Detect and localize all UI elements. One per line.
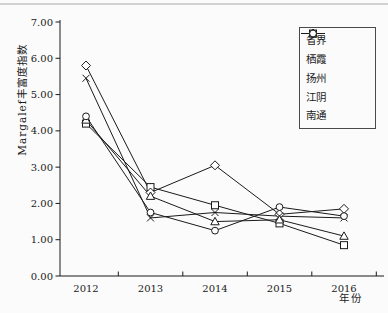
y-tick-label: 6.00 bbox=[31, 53, 53, 64]
x-tick-label: 2015 bbox=[267, 283, 292, 294]
y-tick-label: 0.00 bbox=[31, 271, 53, 282]
y-tick-label: 4.00 bbox=[31, 125, 53, 136]
circle-marker-icon bbox=[276, 204, 283, 211]
y-tick-label: 3.00 bbox=[31, 162, 53, 173]
y-axis-title: Margalef丰富度指数 bbox=[14, 24, 30, 176]
x-marker-icon bbox=[83, 75, 90, 82]
legend: 省界 栖霞 扬州 江阴 南通 bbox=[299, 27, 376, 129]
x-tick-label: 2014 bbox=[202, 283, 227, 294]
legend-entry: 南通 bbox=[300, 110, 375, 121]
y-tick-label: 2.00 bbox=[31, 198, 53, 209]
x-tick-label: 2013 bbox=[138, 283, 163, 294]
legend-entry: 扬州 bbox=[300, 73, 375, 84]
legend-entry: 江阴 bbox=[300, 92, 375, 103]
y-tick-label: 5.00 bbox=[31, 89, 53, 100]
series-markers-triangle bbox=[82, 116, 348, 240]
x-axis-title: 年份 bbox=[339, 290, 363, 305]
legend-label: 江阴 bbox=[306, 92, 326, 103]
circle-marker-icon bbox=[310, 30, 317, 37]
square-marker-icon bbox=[341, 242, 348, 249]
circle-marker-icon bbox=[147, 209, 154, 216]
series-line-circle bbox=[86, 116, 344, 230]
series-markers-circle bbox=[83, 113, 348, 234]
diamond-marker-icon bbox=[82, 61, 91, 70]
legend-label: 栖霞 bbox=[306, 54, 326, 65]
circle-marker-icon bbox=[300, 28, 326, 39]
diamond-marker-icon bbox=[211, 161, 220, 170]
legend-label: 南通 bbox=[306, 110, 326, 121]
circle-marker-icon bbox=[212, 227, 219, 234]
circle-marker-icon bbox=[83, 113, 90, 120]
legend-entry: 栖霞 bbox=[300, 54, 375, 65]
y-tick-label: 1.00 bbox=[31, 234, 53, 245]
legend-label: 扬州 bbox=[306, 73, 326, 84]
diamond-marker-icon bbox=[340, 204, 349, 213]
x-tick-label: 2012 bbox=[73, 283, 98, 294]
y-tick-label: 7.00 bbox=[31, 17, 53, 28]
line-chart: 0.001.002.003.004.005.006.007.0020122013… bbox=[0, 0, 388, 313]
square-marker-icon bbox=[212, 202, 219, 209]
circle-marker-icon bbox=[341, 213, 348, 220]
